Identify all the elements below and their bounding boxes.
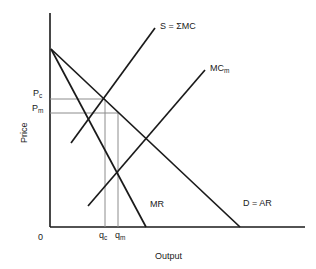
quantity-competitive-sub: c xyxy=(104,234,107,241)
economics-diagram: S = ΣMC MCm MR D = AR Pc Pm qc qm 0 Pric… xyxy=(0,0,316,269)
price-monopoly-label: Pm xyxy=(32,104,43,113)
plot-area xyxy=(0,0,316,269)
demand-curve-label: D = AR xyxy=(243,199,272,208)
mc-monopoly-label-base: MC xyxy=(210,63,224,73)
origin-label: 0 xyxy=(38,233,43,242)
price-monopoly-sub: m xyxy=(38,107,43,114)
marginal-revenue-curve xyxy=(51,49,146,227)
quantity-competitive-label: qc xyxy=(99,231,107,240)
quantity-monopoly-sub: m xyxy=(120,234,125,241)
price-competitive-sub: c xyxy=(39,92,42,99)
quantity-monopoly-label: qm xyxy=(115,231,125,240)
supply-curve-label: S = ΣMC xyxy=(160,22,196,31)
y-axis-label: Price xyxy=(20,122,29,143)
x-axis-label: Output xyxy=(155,252,182,261)
mc-monopoly-curve-label: MCm xyxy=(210,64,229,73)
mc-monopoly-label-sub: m xyxy=(224,67,229,74)
marginal-revenue-curve-label: MR xyxy=(150,200,164,209)
price-competitive-label: Pc xyxy=(33,89,42,98)
supply-curve xyxy=(71,28,155,143)
mc-monopoly-curve xyxy=(88,70,205,206)
